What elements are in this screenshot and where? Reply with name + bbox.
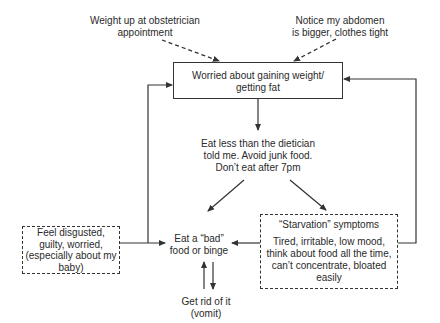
- node-text-line: Eat a “bad”: [166, 233, 232, 245]
- arrow-restrict-to-binge: [208, 180, 244, 211]
- node-text-line: Eat less than the dietician: [188, 138, 328, 150]
- node-eat-bad-food-or-binge: Eat a “bad” food or binge: [166, 233, 232, 257]
- node-title: “Starvation” symptoms: [261, 219, 397, 231]
- node-worried-about-weight: Worried about gaining weight/ getting fa…: [173, 62, 343, 99]
- node-feel-disgusted: Feel disgusted, guilty, worried, (especi…: [22, 226, 120, 274]
- arrow-feelings-to-worried: [148, 85, 172, 243]
- node-text-line: Tired, irritable, low mood,: [261, 236, 397, 248]
- node-text-line: told me. Avoid junk food.: [188, 150, 328, 162]
- node-text-line: (especially about my: [23, 250, 119, 262]
- node-text-line: baby): [23, 262, 119, 274]
- node-trigger-weight-up: Weight up at obstetrician appointment: [85, 15, 205, 39]
- arrow-trigger-left-to-worried: [162, 40, 219, 61]
- node-text-line: Notice my abdomen: [280, 15, 400, 27]
- node-text-line: Weight up at obstetrician: [85, 15, 205, 27]
- node-get-rid-of-it: Get rid of it (vomit): [168, 296, 244, 320]
- node-text-line: guilty, worried,: [23, 239, 119, 251]
- node-restrict-eating: Eat less than the dietician told me. Avo…: [188, 138, 328, 174]
- arrow-trigger-right-to-worried: [294, 39, 336, 61]
- node-text-line: (vomit): [168, 308, 244, 320]
- node-text-line: is bigger, clothes tight: [280, 27, 400, 39]
- node-text-line: think about food all the time,: [261, 248, 397, 260]
- node-text-line: Get rid of it: [168, 296, 244, 308]
- node-text-line: food or binge: [166, 245, 232, 257]
- node-text-line: appointment: [85, 27, 205, 39]
- arrow-restrict-to-starvation: [290, 180, 326, 210]
- node-text-line: can’t concentrate, bloated: [261, 260, 397, 272]
- node-text-line: Feel disgusted,: [23, 227, 119, 239]
- node-text-line: Don’t eat after 7pm: [188, 162, 328, 174]
- node-text-line: getting fat: [174, 82, 342, 94]
- node-text-line: easily: [261, 272, 397, 284]
- node-starvation-symptoms: “Starvation” symptoms Tired, irritable, …: [260, 214, 398, 289]
- node-trigger-abdomen-bigger: Notice my abdomen is bigger, clothes tig…: [280, 15, 400, 39]
- node-text-line: Worried about gaining weight/: [174, 70, 342, 82]
